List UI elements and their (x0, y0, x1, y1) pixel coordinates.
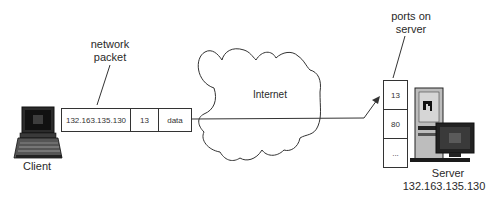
packet-data-field: data (159, 109, 191, 131)
client-label: Client (14, 160, 60, 173)
port-80: 80 (384, 110, 407, 139)
ports-callout-line2: server (384, 23, 438, 36)
internet-label: Internet (240, 88, 300, 101)
packet-port-field: 13 (131, 109, 159, 131)
packet-callout-line (97, 65, 110, 105)
ports-callout-line (393, 36, 405, 78)
laptop-icon (14, 107, 62, 158)
port-more: ... (384, 139, 407, 167)
packet-callout-line1: network (82, 38, 138, 51)
server-ports: 13 80 ... (383, 80, 408, 168)
packet-callout-line2: packet (82, 51, 138, 64)
packet-ip-field: 132.163.135.130 (62, 109, 131, 131)
ports-callout-line1: ports on (384, 10, 438, 23)
ports-callout-label: ports on server (384, 10, 438, 36)
cloud-icon (198, 49, 320, 161)
arrow-head-icon (372, 96, 380, 104)
server-ip-label: 132.163.135.130 (392, 180, 496, 193)
port-13: 13 (384, 81, 407, 110)
network-packet: 132.163.135.130 13 data (61, 108, 192, 132)
arrow-line (364, 100, 377, 118)
server-computer-icon (410, 88, 474, 162)
packet-callout-label: network packet (82, 38, 138, 64)
connection-line (192, 118, 364, 119)
server-label: Server (400, 167, 496, 180)
